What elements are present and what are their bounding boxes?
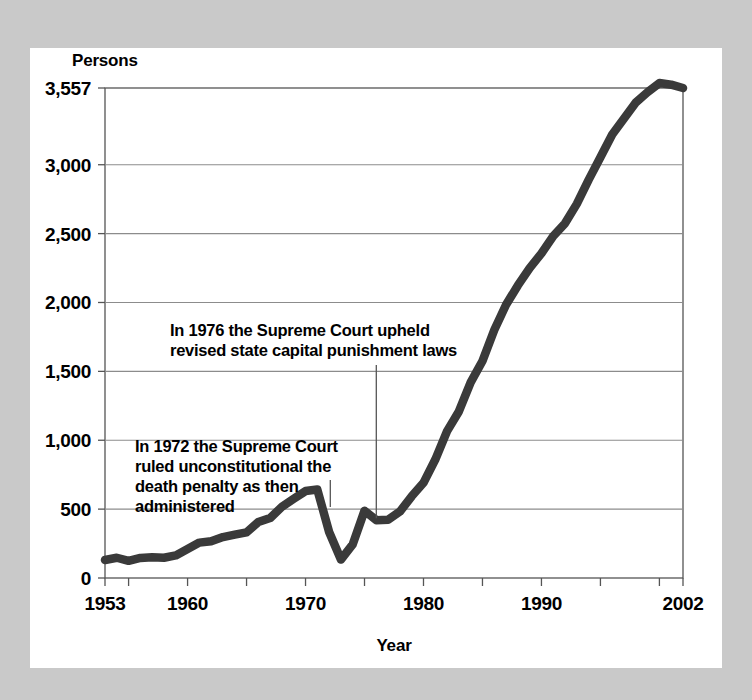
y-axis-ticks	[98, 88, 105, 578]
x-axis-tick-label: 1990	[521, 593, 562, 614]
chart-page: 05001,0001,5002,0002,5003,0003,557 19531…	[0, 0, 752, 700]
x-axis-tick-label: 1953	[84, 593, 125, 614]
x-axis-ticks	[105, 578, 683, 586]
y-axis-tick-label: 2,500	[45, 224, 91, 245]
annotation-1976-line-1: In 1976 the Supreme Court upheld	[170, 321, 430, 339]
y-axis-tick-label: 2,000	[45, 292, 91, 313]
y-axis-tick-label: 3,000	[45, 155, 91, 176]
annotation-1976-line-2: revised state capital punishment laws	[170, 341, 457, 359]
x-axis-tick-label: 1980	[403, 593, 444, 614]
annotation-1972-line-4: administered	[135, 497, 235, 515]
line-chart: 05001,0001,5002,0002,5003,0003,557 19531…	[30, 48, 722, 668]
x-axis-tick-label: 2002	[662, 593, 703, 614]
x-axis-tick-label: 1960	[167, 593, 208, 614]
annotation-1972-line-1: In 1972 the Supreme Court	[135, 437, 339, 455]
y-axis-tick-label: 3,557	[45, 78, 91, 99]
x-axis-tick-labels: 195319601970198019902002	[84, 593, 703, 614]
chart-card: 05001,0001,5002,0002,5003,0003,557 19531…	[30, 48, 722, 668]
y-axis-tick-label: 1,500	[45, 361, 91, 382]
y-axis-unit-label: Persons	[72, 51, 138, 70]
y-axis-tick-label: 1,000	[45, 430, 91, 451]
y-axis-tick-label: 500	[60, 499, 91, 520]
y-axis-tick-labels: 05001,0001,5002,0002,5003,0003,557	[45, 78, 91, 589]
x-axis-tick-label: 1970	[285, 593, 326, 614]
y-axis-tick-label: 0	[81, 568, 91, 589]
annotation-1972-line-2: ruled unconstitutional the	[135, 457, 331, 475]
x-axis-title: Year	[376, 636, 412, 655]
annotation-1972-line-3: death penalty as then	[135, 477, 299, 495]
